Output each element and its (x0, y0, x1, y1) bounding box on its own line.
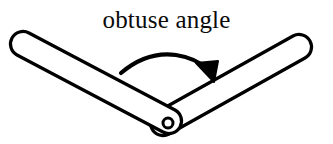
page-title: obtuse angle (0, 6, 333, 34)
hinge-pivot-icon (163, 118, 173, 128)
figure-canvas: obtuse angle (0, 0, 333, 144)
